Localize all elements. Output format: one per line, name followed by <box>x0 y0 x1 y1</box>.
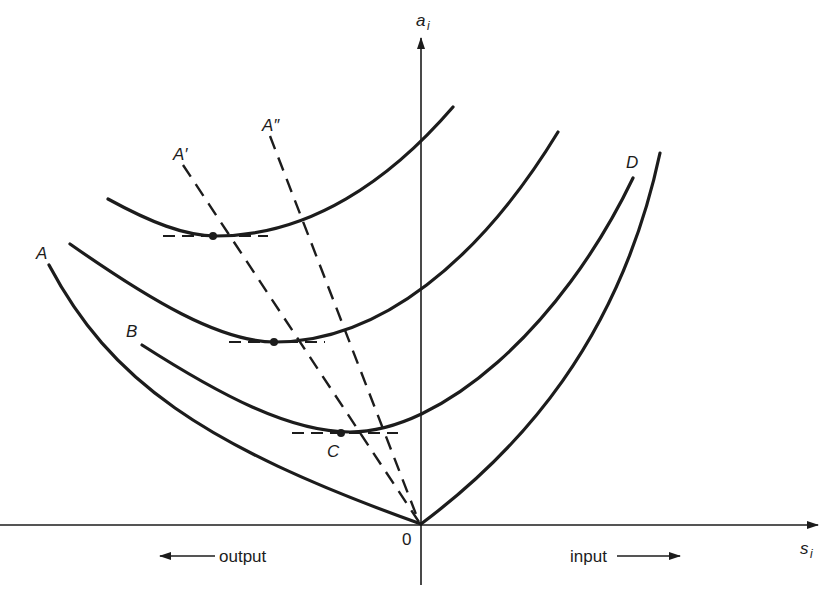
origin-label: 0 <box>402 530 411 549</box>
label-C: C <box>327 442 340 461</box>
label-A-prime: A′ <box>172 145 188 164</box>
diagram-canvas: a i s i 0 output input A B C <box>0 0 837 600</box>
x-axis-label: s <box>800 539 809 558</box>
label-B: B <box>126 322 137 341</box>
input-label: input <box>570 547 607 566</box>
curve-A <box>49 265 421 524</box>
tangency-point-top <box>209 232 217 240</box>
label-A: A <box>35 244 47 263</box>
diagram-svg: a i s i 0 output input A B C <box>0 0 837 600</box>
output-label: output <box>219 547 267 566</box>
label-D: D <box>626 153 638 172</box>
curve-D <box>421 153 660 524</box>
ray-A-prime <box>183 165 419 522</box>
y-axis-label-subscript: i <box>427 19 430 33</box>
x-axis-label-subscript: i <box>810 547 813 561</box>
tangency-point-C <box>337 429 345 437</box>
tangency-point-middle <box>270 338 278 346</box>
label-A-double-prime: A″ <box>261 116 280 135</box>
curve-B <box>142 178 633 432</box>
curve-middle <box>70 132 558 342</box>
curve-top <box>108 107 453 236</box>
y-axis-label: a <box>416 11 425 30</box>
